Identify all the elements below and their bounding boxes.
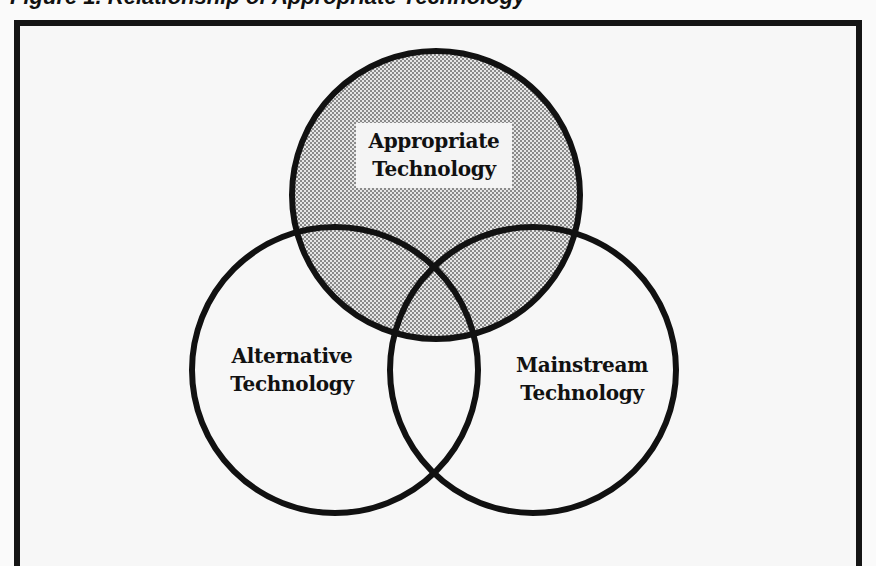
- label-appropriate-line1: Appropriate: [356, 127, 512, 155]
- label-alternative-technology: Alternative Technology: [222, 342, 362, 398]
- label-mainstream-technology: Mainstream Technology: [512, 351, 652, 407]
- label-alternative-line1: Alternative: [222, 342, 362, 370]
- label-mainstream-line2: Technology: [512, 379, 652, 407]
- label-appropriate-line2: Technology: [356, 155, 512, 183]
- label-alternative-line2: Technology: [222, 370, 362, 398]
- label-mainstream-line1: Mainstream: [512, 351, 652, 379]
- label-appropriate-technology: Appropriate Technology: [356, 123, 512, 188]
